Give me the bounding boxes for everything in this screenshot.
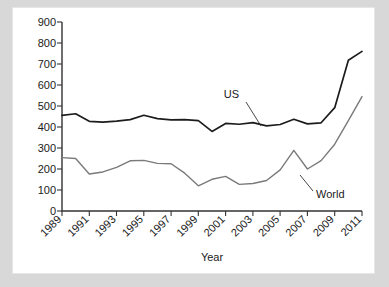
x-tick-label: 1989 bbox=[38, 213, 64, 239]
series-line-world bbox=[62, 97, 362, 186]
y-tick-label: 400 bbox=[38, 121, 56, 133]
y-tick-label: 700 bbox=[38, 58, 56, 70]
series-label-world: World bbox=[316, 188, 345, 200]
y-tick-label: 900 bbox=[38, 16, 56, 28]
y-tick-label: 200 bbox=[38, 163, 56, 175]
y-axis-tick-marks bbox=[57, 22, 62, 211]
line-chart: 900 800 700 600 500 400 300 200 100 0 bbox=[13, 8, 374, 273]
series-line-us bbox=[62, 51, 362, 131]
x-axis-tick-labels: 1989 1991 1993 1995 1997 1999 2001 2003 … bbox=[38, 213, 364, 239]
series-label-us: US bbox=[224, 88, 239, 100]
x-tick-label: 2007 bbox=[283, 213, 309, 239]
y-tick-label: 100 bbox=[38, 184, 56, 196]
x-tick-label: 2005 bbox=[256, 213, 282, 239]
x-tick-label: 1993 bbox=[92, 213, 118, 239]
axis-frame bbox=[62, 22, 362, 211]
x-tick-label: 1997 bbox=[147, 213, 173, 239]
y-tick-label: 500 bbox=[38, 100, 56, 112]
y-axis-tick-labels: 900 800 700 600 500 400 300 200 100 0 bbox=[38, 16, 56, 217]
x-axis-title: Year bbox=[201, 251, 224, 263]
x-tick-label: 2011 bbox=[338, 213, 363, 238]
y-tick-label: 800 bbox=[38, 37, 56, 49]
x-tick-label: 2009 bbox=[310, 213, 336, 239]
y-tick-label: 300 bbox=[38, 142, 56, 154]
chart-figure-panel: 900 800 700 600 500 400 300 200 100 0 bbox=[13, 8, 374, 273]
x-tick-label: 1999 bbox=[174, 213, 200, 239]
x-tick-label: 2003 bbox=[229, 213, 255, 239]
x-tick-label: 1995 bbox=[119, 213, 145, 239]
y-tick-label: 600 bbox=[38, 79, 56, 91]
x-tick-label: 1991 bbox=[65, 213, 91, 239]
world-annotation-leader-line bbox=[300, 175, 313, 191]
x-tick-label: 2001 bbox=[201, 213, 227, 239]
